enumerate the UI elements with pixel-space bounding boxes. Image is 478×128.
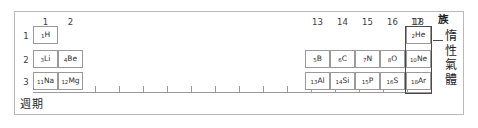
- element-symbol-N: 7N: [363, 55, 372, 63]
- element-cell-P[interactable]: 15P: [355, 72, 380, 90]
- symbol-text-Li: Li: [44, 54, 50, 63]
- axis-tick: [263, 86, 264, 92]
- element-cell-Na[interactable]: 11Na: [33, 72, 58, 90]
- period-axis-line: [33, 92, 432, 93]
- element-cell-H[interactable]: 1H: [33, 26, 58, 44]
- element-cell-Li[interactable]: 3Li: [33, 50, 58, 68]
- callout-char-4: 體: [443, 73, 458, 88]
- axis-tick: [215, 86, 216, 92]
- symbol-text-H: H: [44, 30, 50, 39]
- group-header-2-text: 2: [68, 17, 74, 27]
- element-symbol-Mg: 12Mg: [61, 77, 79, 85]
- element-symbol-Li: 3Li: [41, 55, 51, 63]
- group-header-15: 15: [355, 17, 380, 27]
- element-symbol-C: 6C: [338, 55, 347, 63]
- group-header-15-text: 15: [362, 17, 373, 27]
- element-symbol-H: 1H: [41, 31, 50, 39]
- symbol-text-S: S: [394, 76, 399, 85]
- axis-tick: [239, 86, 240, 92]
- atomic-number-C: 6: [338, 57, 342, 63]
- element-cell-C[interactable]: 6C: [330, 50, 355, 68]
- atomic-number-N: 7: [363, 57, 367, 63]
- symbol-text-Al: Al: [317, 76, 324, 85]
- element-symbol-Be: 4Be: [64, 55, 77, 63]
- group-header-16-text: 16: [387, 17, 398, 27]
- element-cell-B[interactable]: 5B: [305, 50, 330, 68]
- element-symbol-P: 15P: [362, 77, 374, 85]
- element-cell-Be[interactable]: 4Be: [58, 50, 83, 68]
- symbol-text-Na: Na: [44, 76, 54, 85]
- atomic-number-Na: 11: [37, 79, 44, 85]
- group-header-2: 2: [58, 17, 83, 27]
- element-symbol-Na: 11Na: [37, 77, 54, 85]
- element-cell-Mg[interactable]: 12Mg: [58, 72, 83, 90]
- atomic-number-He: 2: [412, 33, 416, 39]
- symbol-text-N: N: [366, 54, 372, 63]
- group-header-13-text: 13: [312, 17, 323, 27]
- element-cell-Ne[interactable]: 10Ne: [406, 50, 431, 68]
- atomic-number-Al: 13: [310, 79, 317, 85]
- callout-connector-line: [433, 40, 443, 41]
- symbol-text-He: He: [415, 30, 425, 39]
- element-cell-He[interactable]: 2He: [406, 26, 431, 44]
- callout-char-1: 惰: [443, 29, 458, 44]
- symbol-text-B: B: [317, 54, 322, 63]
- symbol-text-Ne: Ne: [417, 54, 427, 63]
- period-label-1: 1: [20, 31, 32, 41]
- element-symbol-Ar: 18Ar: [411, 77, 426, 85]
- element-symbol-S: 16S: [387, 77, 399, 85]
- element-symbol-B: 5B: [313, 55, 322, 63]
- element-symbol-He: 2He: [412, 31, 426, 39]
- element-cell-Si[interactable]: 14Si: [330, 72, 355, 90]
- atomic-number-Ne: 10: [410, 57, 417, 63]
- symbol-text-Mg: Mg: [68, 76, 79, 85]
- element-cell-N[interactable]: 7N: [355, 50, 380, 68]
- group-header-14-text: 14: [337, 17, 348, 27]
- element-cell-Ar[interactable]: 18Ar: [406, 72, 431, 90]
- symbol-text-Ar: Ar: [418, 76, 426, 85]
- axis-tick: [119, 86, 120, 92]
- atomic-number-Li: 3: [41, 57, 45, 63]
- axis-tick: [191, 86, 192, 92]
- atomic-number-Ar: 18: [411, 79, 418, 85]
- symbol-text-O: O: [391, 54, 397, 63]
- element-symbol-Al: 13Al: [310, 77, 324, 85]
- axis-tick: [167, 86, 168, 92]
- callout-char-3: 氣: [443, 58, 458, 73]
- period-axis-label: 週期: [20, 98, 43, 111]
- atomic-number-P: 15: [362, 79, 369, 85]
- group-axis-label: 族: [438, 13, 448, 25]
- element-cell-Al[interactable]: 13Al: [305, 72, 330, 90]
- period-label-2: 2: [20, 55, 32, 65]
- axis-tick: [95, 86, 96, 92]
- group-header-16: 16: [380, 17, 405, 27]
- group-header-13: 13: [305, 17, 330, 27]
- group-header-14: 14: [330, 17, 355, 27]
- element-cell-S[interactable]: 16S: [380, 72, 405, 90]
- atomic-number-Si: 14: [336, 79, 343, 85]
- period-label-3: 3: [20, 77, 32, 87]
- element-symbol-Si: 14Si: [336, 77, 350, 85]
- element-cell-O[interactable]: 8O: [380, 50, 405, 68]
- atomic-number-H: 1: [41, 33, 45, 39]
- atomic-number-O: 8: [388, 57, 392, 63]
- axis-tick: [287, 86, 288, 92]
- axis-tick: [143, 86, 144, 92]
- element-symbol-O: 8O: [388, 55, 397, 63]
- atomic-number-S: 16: [387, 79, 394, 85]
- noble-gas-callout-label: 惰 性 氣 體: [443, 29, 458, 87]
- callout-char-2: 性: [443, 44, 458, 59]
- symbol-text-Si: Si: [343, 76, 350, 85]
- periodic-table-figure: 1 2 13 14 15 16 17 18 族 1 2 3 1H 3Li 4Be…: [0, 0, 478, 128]
- symbol-text-Be: Be: [67, 54, 77, 63]
- atomic-number-Mg: 12: [61, 79, 68, 85]
- atomic-number-Be: 4: [64, 57, 68, 63]
- element-symbol-Ne: 10Ne: [410, 55, 427, 63]
- atomic-number-B: 5: [313, 57, 317, 63]
- symbol-text-P: P: [369, 76, 374, 85]
- symbol-text-C: C: [342, 54, 347, 63]
